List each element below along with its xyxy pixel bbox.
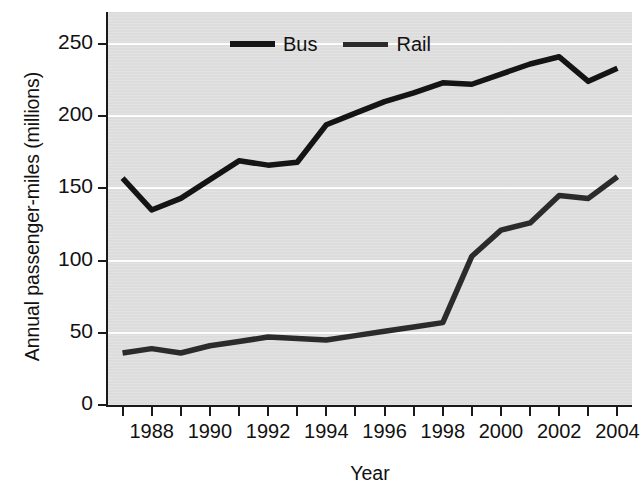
legend-label-rail: Rail: [396, 34, 430, 54]
x-axis-tick: [122, 406, 124, 416]
x-axis-tick: [209, 406, 211, 416]
series-line-bus: [123, 57, 618, 210]
series-line-rail: [123, 177, 618, 353]
x-axis-spine: [106, 405, 632, 407]
y-axis-tick-label: 50: [70, 319, 93, 343]
chart-legend: Bus Rail: [230, 34, 431, 54]
x-axis-tick-label: 1990: [188, 420, 233, 443]
y-axis-tick-label: 100: [58, 247, 93, 271]
legend-swatch-bus-icon: [230, 41, 275, 47]
x-axis-tick-label: 2002: [537, 420, 582, 443]
x-axis-tick: [296, 406, 298, 416]
legend-swatch-rail-icon: [343, 42, 388, 47]
y-axis-tick: [98, 187, 107, 189]
legend-item-bus: Bus: [230, 34, 317, 54]
x-axis-tick-label: 1998: [421, 420, 466, 443]
x-axis-tick-label: 1994: [304, 420, 349, 443]
x-axis-tick: [587, 406, 589, 416]
x-axis-tick: [151, 406, 153, 416]
y-axis-tick: [98, 43, 107, 45]
x-axis-tick: [354, 406, 356, 416]
x-axis-tick: [180, 406, 182, 416]
y-axis-spine: [106, 12, 108, 407]
legend-label-bus: Bus: [283, 34, 317, 54]
x-axis-tick: [413, 406, 415, 416]
x-axis-tick: [500, 406, 502, 416]
x-axis-tick-label: 2004: [595, 420, 640, 443]
x-axis-title: Year: [108, 462, 632, 485]
y-axis-title: Annual passenger-miles (millions): [21, 17, 44, 417]
x-axis-tick: [529, 406, 531, 416]
x-axis-tick: [442, 406, 444, 416]
x-axis-tick-label: 1988: [129, 420, 174, 443]
plot-area: Bus Rail: [108, 12, 632, 405]
x-axis-tick: [238, 406, 240, 416]
y-axis-tick-label: 250: [58, 30, 93, 54]
y-axis-tick: [98, 404, 107, 406]
y-axis-tick: [98, 115, 107, 117]
x-axis-tick: [558, 406, 560, 416]
y-axis-tick-label: 0: [81, 391, 93, 415]
x-axis-tick: [267, 406, 269, 416]
x-axis-tick: [325, 406, 327, 416]
y-axis-tick: [98, 332, 107, 334]
x-axis-tick: [384, 406, 386, 416]
legend-item-rail: Rail: [343, 34, 430, 54]
y-axis-tick-label: 150: [58, 174, 93, 198]
x-axis-tick-label: 1996: [362, 420, 407, 443]
y-axis-tick: [98, 260, 107, 262]
x-axis-tick: [616, 406, 618, 416]
x-axis-tick-label: 1992: [246, 420, 291, 443]
series-lines: [108, 12, 632, 405]
x-axis-tick: [471, 406, 473, 416]
x-axis-tick-label: 2000: [479, 420, 524, 443]
y-axis-tick-label: 200: [58, 102, 93, 126]
